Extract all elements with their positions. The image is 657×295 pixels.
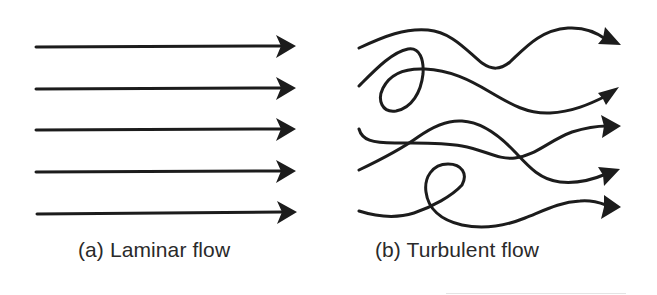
turbulent-streamline [359,49,619,113]
laminar-streamline [36,77,296,100]
turbulent-streamline [359,164,621,227]
laminar-streamline [36,160,296,183]
turbulent-streamline [359,115,621,158]
laminar-flow-caption: (a) Laminar flow [78,238,230,262]
laminar-streamline [37,201,297,224]
arrowhead-right-icon [598,87,619,105]
turbulent-streamline [359,27,621,68]
turbulent-flow-caption: (b) Turbulent flow [375,238,539,262]
laminar-streamline [36,35,296,58]
arrowhead-right-icon [601,115,621,138]
bottom-divider [446,293,626,294]
turbulent-flow-panel [359,27,621,227]
laminar-flow-panel [36,35,297,224]
laminar-streamline [36,118,296,141]
arrowhead-right-icon [601,195,621,219]
